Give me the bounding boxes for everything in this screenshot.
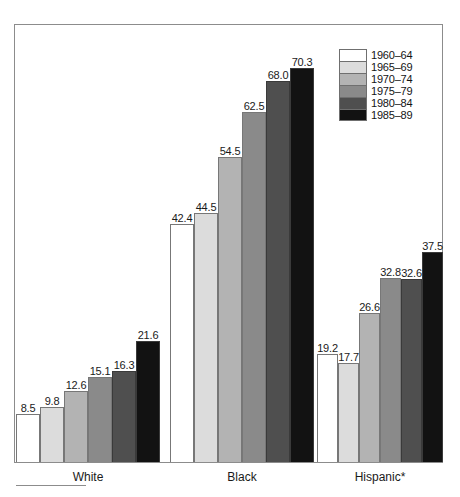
bar-value-label: 37.5	[422, 240, 443, 252]
bar-value-label: 42.4	[172, 212, 193, 224]
bar[interactable]: 8.5	[16, 414, 40, 462]
legend-swatch-icon	[339, 109, 367, 121]
chart-legend: 1960–641965–691970–741975–791980–841985–…	[339, 49, 439, 121]
legend-item-label: 1975–79	[371, 85, 412, 97]
legend-item[interactable]: 1960–64	[339, 49, 439, 61]
legend-item-label: 1960–64	[371, 49, 412, 61]
legend-item-label: 1980–84	[371, 97, 412, 109]
bar[interactable]: 12.6	[64, 391, 88, 462]
legend-swatch-icon	[339, 61, 367, 73]
bar-value-label: 19.2	[317, 342, 338, 354]
bar-value-label: 70.3	[292, 56, 313, 68]
bar[interactable]: 62.5	[242, 112, 266, 462]
category-label-hispanic: Hispanic*	[317, 470, 443, 484]
bar-value-label: 17.7	[338, 351, 359, 363]
legend-item[interactable]: 1975–79	[339, 85, 439, 97]
legend-item[interactable]: 1980–84	[339, 97, 439, 109]
legend-swatch-icon	[339, 49, 367, 61]
bar[interactable]: 54.5	[218, 157, 242, 462]
bar-value-label: 21.6	[138, 329, 159, 341]
footnote-separator-rule	[16, 485, 86, 486]
legend-swatch-icon	[339, 73, 367, 85]
bar-value-label: 32.6	[401, 267, 422, 279]
bar[interactable]: 37.5	[422, 252, 443, 462]
bar-group-white: 8.59.812.615.116.321.6	[16, 25, 160, 462]
bar[interactable]: 21.6	[136, 341, 160, 462]
legend-item[interactable]: 1985–89	[339, 109, 439, 121]
legend-item-label: 1970–74	[371, 73, 412, 85]
category-label-white: White	[16, 470, 160, 484]
bar[interactable]: 26.6	[359, 313, 380, 462]
bar-value-label: 16.3	[114, 359, 135, 371]
legend-item-label: 1985–89	[371, 109, 412, 121]
bar-value-label: 54.5	[220, 145, 241, 157]
legend-item-label: 1965–69	[371, 61, 412, 73]
bar[interactable]: 42.4	[170, 224, 194, 462]
bar[interactable]: 9.8	[40, 407, 64, 462]
legend-item[interactable]: 1965–69	[339, 61, 439, 73]
bar-value-label: 8.5	[21, 402, 36, 414]
bar-value-label: 32.8	[380, 266, 401, 278]
bar-value-label: 62.5	[244, 100, 265, 112]
legend-swatch-icon	[339, 97, 367, 109]
bar[interactable]: 15.1	[88, 377, 112, 462]
bar-value-label: 9.8	[45, 395, 60, 407]
bar-value-label: 26.6	[359, 301, 380, 313]
bar[interactable]: 16.3	[112, 371, 136, 462]
bar-value-label: 15.1	[90, 365, 111, 377]
bar[interactable]: 19.2	[317, 354, 338, 462]
bar[interactable]: 17.7	[338, 363, 359, 462]
legend-swatch-icon	[339, 85, 367, 97]
bar-value-label: 44.5	[196, 201, 217, 213]
chart-frame: 8.59.812.615.116.321.642.444.554.562.568…	[14, 24, 443, 463]
bar-value-label: 68.0	[268, 69, 289, 81]
bar-value-label: 12.6	[66, 379, 87, 391]
bar[interactable]: 68.0	[266, 81, 290, 462]
bar[interactable]: 32.8	[380, 278, 401, 462]
bar[interactable]: 70.3	[290, 68, 314, 462]
legend-item[interactable]: 1970–74	[339, 73, 439, 85]
category-label-black: Black	[170, 470, 314, 484]
bar-group-black: 42.444.554.562.568.070.3	[170, 25, 314, 462]
bar[interactable]: 44.5	[194, 213, 218, 462]
bar[interactable]: 32.6	[401, 279, 422, 462]
